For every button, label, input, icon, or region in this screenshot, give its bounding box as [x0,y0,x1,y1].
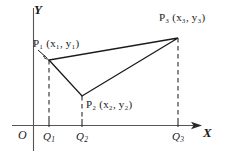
foot-label-q1-letter: Q [43,130,51,142]
diagram-svg [0,0,226,159]
foot-label-q1: Q1 [43,131,55,143]
point-label-p2: P₂ (x₂, y₂) [86,99,132,110]
foot-label-q2-index: 2 [84,135,88,144]
foot-label-q3-index: 3 [180,135,184,144]
x-axis [12,122,202,129]
p1-leader-arrow [38,50,50,61]
x-axis-label: X [203,126,212,139]
foot-label-q3-letter: Q [172,130,180,142]
point-label-p3: P₃ (x₃, y₃) [159,12,205,23]
foot-label-q2-letter: Q [76,130,84,142]
figure-canvas: Y X O P₁ (x₁, y₁) P₂ (x₂, y₂) P₃ (x₃, y₃… [0,0,226,159]
origin-label: O [18,129,27,141]
foot-label-q1-index: 1 [51,135,55,144]
point-label-p1: P₁ (x₁, y₁) [33,38,79,49]
y-axis-label: Y [34,3,42,16]
foot-label-q2: Q2 [76,131,88,143]
p1-leader-line [38,50,48,59]
foot-label-q3: Q3 [172,131,184,143]
